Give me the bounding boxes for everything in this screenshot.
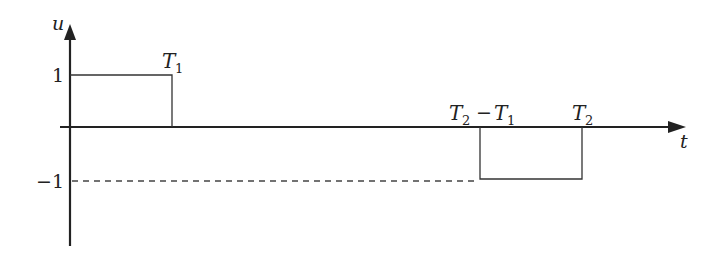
x-axis-label: t xyxy=(680,130,688,152)
level-one-label: 1 xyxy=(52,64,64,86)
svg-text:−: − xyxy=(476,101,492,123)
positive-pulse xyxy=(70,75,172,127)
level-minus-one-label: −1 xyxy=(36,170,64,192)
t2-label: T 2 xyxy=(572,101,593,128)
pulse-diagram: u t 1 −1 T 1 T 2 − T 1 T 2 xyxy=(0,0,724,257)
t1-label: T 1 xyxy=(162,49,183,76)
u-axis-arrow-icon xyxy=(64,24,76,40)
y-axis-label: u xyxy=(52,12,64,34)
t2-minus-t1-label: T 2 − T 1 xyxy=(449,101,515,128)
negative-pulse xyxy=(480,127,582,179)
svg-text:2: 2 xyxy=(462,113,470,128)
svg-text:1: 1 xyxy=(507,113,515,128)
svg-text:2: 2 xyxy=(585,113,593,128)
svg-text:1: 1 xyxy=(175,61,183,76)
